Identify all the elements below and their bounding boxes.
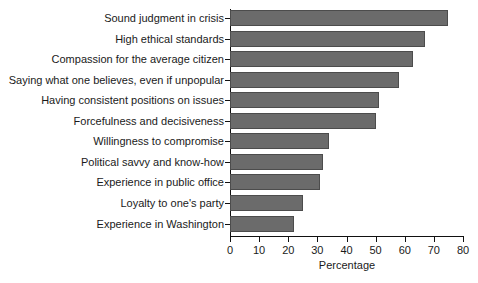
x-axis-tick-label: 10 [244,244,274,256]
x-axis-tick-label: 30 [302,244,332,256]
bar [230,51,413,67]
category-axis-labels: Sound judgment in crisisHigh ethical sta… [0,10,224,236]
x-axis-tick-label: 0 [215,244,245,256]
x-axis-tick [317,237,318,242]
category-label: Willingness to compromise [0,133,224,149]
x-axis-tick [376,237,377,242]
bar [230,195,303,211]
bar-row [230,133,463,149]
bar [230,174,320,190]
category-label: Experience in Washington [0,216,224,232]
x-axis-tick [434,237,435,242]
category-label: Having consistent positions on issues [0,92,224,108]
x-axis-tick-label: 80 [448,244,478,256]
bar-row [230,174,463,190]
bar [230,72,399,88]
x-axis-tick [347,237,348,242]
bar [230,92,379,108]
category-label: Experience in public office [0,174,224,190]
x-axis-tick-label: 40 [332,244,362,256]
x-axis-tick-label: 20 [273,244,303,256]
x-axis-tick [259,237,260,242]
bar-row [230,10,463,26]
bar-row [230,154,463,170]
category-label: Loyalty to one's party [0,195,224,211]
bar-row [230,51,463,67]
bar-row [230,113,463,129]
category-label: Compassion for the average citizen [0,51,224,67]
bar-row [230,72,463,88]
bar [230,154,323,170]
x-axis-title: Percentage [230,259,464,271]
x-axis-tick-label: 50 [361,244,391,256]
bar [230,31,425,47]
bar-chart: Sound judgment in crisisHigh ethical sta… [0,0,478,283]
category-label: Forcefulness and decisiveness [0,113,224,129]
bar-row [230,195,463,211]
category-label: Sound judgment in crisis [0,10,224,26]
x-axis-tick [288,237,289,242]
category-label: Saying what one believes, even if unpopu… [0,72,224,88]
x-axis-tick [405,237,406,242]
bar-row [230,31,463,47]
x-axis-tick [463,237,464,242]
plot-area [230,10,463,236]
bar [230,113,376,129]
category-label: Political savvy and know-how [0,154,224,170]
x-axis-tick [230,237,231,242]
bar [230,133,329,149]
bar-row [230,92,463,108]
bar-series [230,10,463,236]
bar [230,10,448,26]
x-axis-tick-label: 70 [419,244,449,256]
bar [230,216,294,232]
x-axis-tick-label: 60 [390,244,420,256]
category-label: High ethical standards [0,31,224,47]
bar-row [230,216,463,232]
